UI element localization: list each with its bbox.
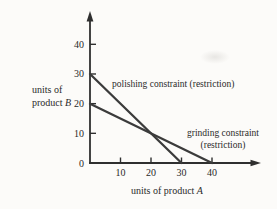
origin-tick-label: 0 — [79, 158, 84, 169]
constraint-chart-figure: 01020304010203040 units of product B uni… — [0, 0, 277, 209]
y-axis-tick-label: 40 — [74, 39, 84, 50]
x-axis-tick-label: 40 — [207, 167, 217, 178]
x-axis-tick-label: 30 — [177, 167, 187, 178]
x-axis-title: units of product A — [117, 184, 217, 197]
y-axis-product-letter: B — [65, 97, 71, 108]
x-axis-tick-label: 10 — [116, 167, 126, 178]
y-axis-tick-label: 10 — [74, 128, 84, 139]
y-axis-title-line2: product — [32, 97, 63, 108]
x-axis-tick-label: 20 — [146, 167, 156, 178]
x-axis-arrowhead — [251, 160, 262, 166]
grinding-constraint-label: grinding constraint (restriction) — [168, 128, 277, 151]
x-axis-title-text: units of product — [131, 185, 194, 196]
polishing-constraint-label: polishing constraint (restriction) — [112, 79, 234, 91]
grinding-constraint-label-line2: (restriction) — [168, 140, 277, 152]
y-axis-title-line1: units of — [32, 84, 62, 95]
y-axis-tick-label: 30 — [74, 68, 84, 79]
y-axis-arrowhead — [87, 11, 94, 22]
x-axis-product-letter: A — [197, 185, 203, 196]
grinding-constraint-label-line1: grinding constraint — [168, 128, 277, 140]
y-axis-tick-label: 20 — [74, 98, 84, 109]
y-axis-title: units of product B — [32, 83, 71, 109]
